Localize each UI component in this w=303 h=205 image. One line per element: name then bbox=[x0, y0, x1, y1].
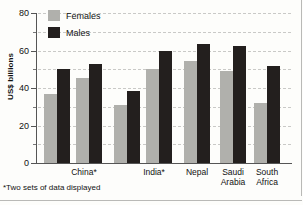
chart-footnote: *Two sets of data displayed bbox=[3, 183, 100, 192]
bar-male bbox=[159, 51, 172, 164]
x-axis-category-label: China* bbox=[54, 167, 114, 177]
legend-item: Females bbox=[48, 10, 101, 21]
bar-male bbox=[57, 69, 70, 163]
y-tick-major bbox=[31, 163, 36, 164]
y-tick-major bbox=[31, 51, 36, 52]
y-tick-label: 0 bbox=[24, 158, 29, 168]
y-tick-label: 20 bbox=[19, 121, 29, 131]
y-tick-label: 60 bbox=[19, 46, 29, 56]
figure-border-right bbox=[301, 0, 302, 196]
y-tick-label: 40 bbox=[19, 83, 29, 93]
bar-male bbox=[89, 64, 102, 163]
bar-male bbox=[233, 46, 246, 163]
y-tick-minor bbox=[33, 144, 36, 145]
y-tick-major bbox=[31, 126, 36, 127]
chart-figure: US$ billions 020406080 China*India*Nepal… bbox=[0, 0, 303, 205]
bar-female bbox=[146, 69, 159, 163]
chart-title-fragment bbox=[22, 0, 222, 3]
y-tick-major bbox=[31, 88, 36, 89]
x-axis-category-label: South Africa bbox=[244, 167, 290, 187]
female-swatch-icon bbox=[48, 10, 60, 21]
bar-female bbox=[114, 105, 127, 163]
legend-label: Females bbox=[66, 11, 101, 21]
x-axis-line bbox=[36, 163, 292, 164]
bar-female bbox=[254, 103, 267, 163]
y-tick-major bbox=[31, 13, 36, 14]
bar-female bbox=[220, 71, 233, 163]
bar-female bbox=[76, 78, 89, 163]
bar-female bbox=[44, 94, 57, 163]
y-axis-label: US$ billions bbox=[6, 47, 15, 107]
figure-border-bottom bbox=[0, 200, 302, 201]
y-tick-minor bbox=[33, 32, 36, 33]
bar-male bbox=[197, 44, 210, 163]
y-tick-minor bbox=[33, 69, 36, 70]
bar-male bbox=[267, 66, 280, 163]
bar-female bbox=[184, 61, 197, 163]
bar-male bbox=[127, 91, 140, 163]
legend-item: Males bbox=[48, 27, 90, 38]
male-swatch-icon bbox=[48, 27, 60, 38]
legend-label: Males bbox=[66, 28, 90, 38]
y-tick-minor bbox=[33, 107, 36, 108]
y-tick-label: 80 bbox=[19, 8, 29, 18]
